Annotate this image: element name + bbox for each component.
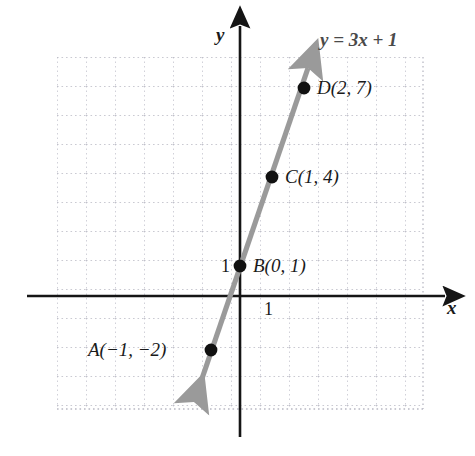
x-tick-label-1: 1 — [264, 300, 273, 318]
point-c-label: C(1, 4) — [285, 167, 339, 186]
point-b-dot — [234, 260, 247, 273]
point-d-dot — [298, 82, 311, 95]
equation-label: y = 3x + 1 — [320, 30, 398, 49]
point-a-label: A(−1, −2) — [88, 340, 166, 359]
x-axis-label: x — [447, 298, 457, 317]
y-tick-label-1: 1 — [221, 257, 230, 275]
graph-canvas — [0, 0, 475, 456]
point-a-dot — [205, 344, 218, 357]
y-axis-label: y — [216, 25, 224, 44]
point-d-label: D(2, 7) — [317, 78, 372, 97]
point-c-dot — [266, 171, 279, 184]
point-b-label: B(0, 1) — [253, 256, 306, 275]
coordinate-graph-figure: y = 3x + 1 y x 1 1 A(−1, −2) B(0, 1) C(1… — [0, 0, 475, 456]
